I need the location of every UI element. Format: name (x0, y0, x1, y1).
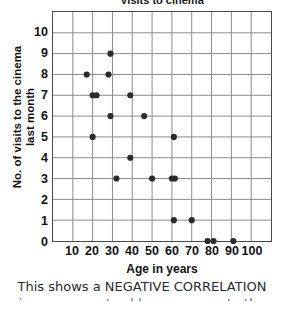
caption-line-2: i.e. as one gets older, one goes to the … (0, 295, 284, 301)
x-axis-title: Age in years (52, 262, 272, 276)
data-point (149, 175, 155, 181)
data-point (171, 134, 177, 140)
y-axis-title-line-2: last month (24, 17, 37, 217)
y-axis-title: No. of visits to the cinema last month (11, 17, 37, 217)
x-axis-tick-label: 100 (237, 245, 267, 258)
data-point (171, 217, 177, 223)
scatter-plot-figure: Visits to cinema 012345678910 1020304050… (0, 0, 284, 313)
plot-area (52, 11, 272, 242)
data-point (105, 71, 111, 77)
data-point (107, 113, 113, 119)
x-axis-tick-labels: 102030405060708090100 (52, 245, 272, 260)
caption-line-1: This shows a NEGATIVE CORRELATION (18, 279, 267, 294)
data-point (172, 175, 178, 181)
y-axis-tick-label: 0 (26, 236, 48, 248)
data-point (84, 71, 90, 77)
data-point (90, 134, 96, 140)
data-point (127, 92, 133, 98)
data-point (189, 217, 195, 223)
data-point (107, 51, 113, 57)
chart-title: Visits to cinema (52, 0, 272, 5)
caption: This shows a NEGATIVE CORRELATION i.e. a… (0, 278, 284, 301)
data-point (141, 113, 147, 119)
y-axis-title-line-1: No. of visits to the cinema (11, 17, 24, 217)
data-point (113, 175, 119, 181)
data-point (94, 92, 100, 98)
data-points-layer (53, 12, 271, 241)
data-point (127, 155, 133, 161)
